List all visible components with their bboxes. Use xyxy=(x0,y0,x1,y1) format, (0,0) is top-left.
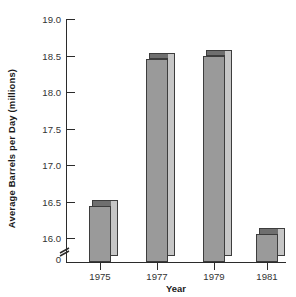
axis-break-icon xyxy=(58,240,76,260)
bar-chart: Average Barrels per Day (millions) 19.0 … xyxy=(0,0,296,297)
bar-1981-side-face xyxy=(278,228,285,256)
y-tick-label-18-0: 18.0 xyxy=(21,87,61,98)
x-tick-label-1981: 1981 xyxy=(240,271,294,282)
x-tick-label-1975: 1975 xyxy=(73,271,127,282)
x-tick-1981 xyxy=(267,263,268,270)
y-tick-18-0 xyxy=(66,92,75,93)
bar-1977-front-face xyxy=(146,59,168,263)
bar-1979 xyxy=(203,0,232,262)
bar-1981-front-face xyxy=(256,234,278,262)
bar-1975-front-face xyxy=(89,206,111,262)
x-tick-1979 xyxy=(214,263,215,270)
y-tick-label-17-0: 17.0 xyxy=(21,160,61,171)
bar-1975-side-face xyxy=(111,200,118,256)
bar-1979-side-face xyxy=(225,50,232,256)
y-tick-17-0 xyxy=(66,165,75,166)
bar-1977-side-face xyxy=(168,53,175,256)
y-tick-label-16-0: 16.0 xyxy=(21,233,61,244)
x-tick-label-1977: 1977 xyxy=(130,271,184,282)
bar-1981 xyxy=(256,0,285,262)
y-tick-label-17-5: 17.5 xyxy=(21,123,61,134)
y-tick-label-zero: 0 xyxy=(21,254,61,265)
bar-1977 xyxy=(146,0,175,262)
y-axis-title: Average Barrels per Day (millions) xyxy=(0,0,22,297)
y-tick-label-19-0: 19.0 xyxy=(21,14,61,25)
y-tick-16-5 xyxy=(66,202,75,203)
x-axis-title: Year xyxy=(66,283,286,294)
y-tick-18-5 xyxy=(66,56,75,57)
y-tick-label-18-5: 18.5 xyxy=(21,50,61,61)
x-tick-1977 xyxy=(157,263,158,270)
x-tick-label-1979: 1979 xyxy=(187,271,241,282)
bar-1975 xyxy=(89,0,118,262)
y-tick-label-16-5: 16.5 xyxy=(21,196,61,207)
bar-1979-front-face xyxy=(203,56,225,263)
y-tick-19-0 xyxy=(66,19,75,20)
x-tick-1975 xyxy=(100,263,101,270)
y-tick-17-5 xyxy=(66,129,75,130)
